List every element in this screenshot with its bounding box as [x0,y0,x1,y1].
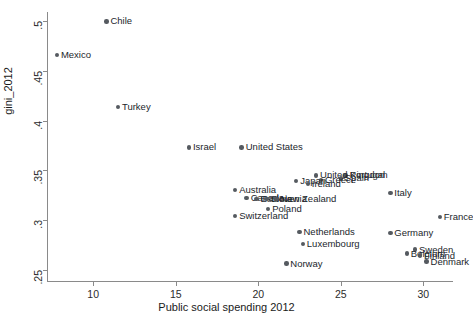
x-tick-mark [423,282,424,286]
x-tick-mark [258,282,259,286]
data-point [418,253,423,258]
data-point-label: Germany [394,227,433,238]
x-tick-mark [93,282,94,286]
data-point-label: Chile [110,15,132,26]
data-point [297,230,302,235]
data-point [284,261,289,266]
x-tick-mark [341,282,342,286]
data-point [55,53,60,58]
data-point [233,188,238,193]
y-tick-label: .25 [32,270,44,304]
data-point-label: Italy [394,187,411,198]
data-point [294,179,299,184]
data-point-label: Ireland [312,178,341,189]
y-tick-label: .45 [32,71,44,105]
data-point [104,19,109,24]
data-point-label: Netherlands [304,226,355,237]
data-point [388,191,393,196]
data-point [405,251,410,256]
data-point [187,145,192,150]
x-tick-mark [176,282,177,286]
data-point [301,242,306,247]
y-tick-label: .4 [32,121,44,155]
x-tick-label: 10 [73,288,113,300]
data-point [239,145,244,150]
data-point [424,259,429,264]
y-tick-label: .5 [32,21,44,55]
data-point [233,214,238,219]
data-point-label: Mexico [61,49,91,60]
data-point [388,231,393,236]
y-tick-label: .3 [32,220,44,254]
data-point-label: Switzerland [239,210,288,221]
x-axis-title: Public social spending 2012 [0,301,453,313]
data-point-label: United States [246,141,303,152]
data-point [264,197,269,202]
y-axis-line [47,12,48,281]
data-point-label: Israel [193,141,216,152]
data-point-label: Denmark [431,256,470,267]
data-point [438,215,443,220]
data-point-label: Turkey [122,101,151,112]
y-axis-title: gini_2012 [2,51,14,131]
data-point-label: Luxembourg [307,238,360,249]
x-tick-label: 15 [156,288,196,300]
data-point [274,197,279,202]
data-point-label: Norway [290,258,322,269]
data-point-label: France [444,211,473,222]
x-axis-line [47,281,453,282]
data-point [244,196,249,201]
x-tick-label: 30 [403,288,443,300]
y-tick-label: .35 [32,170,44,204]
x-tick-label: 20 [238,288,278,300]
data-point [116,105,121,110]
x-tick-label: 25 [321,288,361,300]
